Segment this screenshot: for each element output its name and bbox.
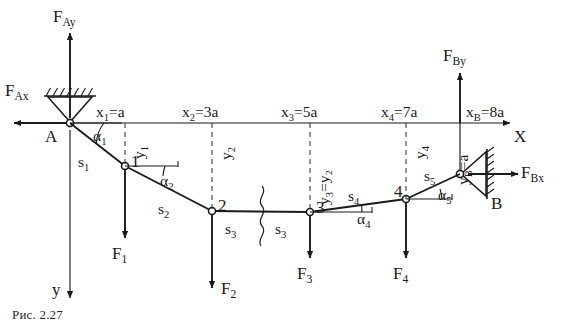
wavy-break-icon (260, 186, 264, 246)
label-x3: x3=5a (281, 104, 317, 124)
label-x4: x4=7a (381, 104, 417, 124)
label-f3: F3 (297, 265, 312, 286)
label-s5: s5 (424, 168, 435, 188)
label-alpha1: α1 (93, 128, 106, 148)
figure-caption: Рис. 2.27 (12, 307, 63, 321)
label-s1: s1 (78, 154, 89, 174)
label-alpha5: α5 (438, 187, 451, 207)
label-x2: x2=3a (182, 104, 218, 124)
label-x-axis: X (514, 128, 526, 145)
label-s2: s2 (158, 201, 169, 221)
label-alpha2: α2 (160, 173, 173, 193)
label-s3-left: s3 (225, 221, 236, 241)
label-node-3: 3 (316, 199, 325, 216)
label-alpha4: α4 (357, 211, 370, 231)
label-f4: F4 (393, 265, 408, 286)
label-f1: F1 (112, 245, 127, 266)
label-y-axis: y (52, 281, 61, 298)
label-node-1: 1 (131, 153, 140, 170)
label-xb: xB=8a (466, 104, 504, 124)
angle-arcs (97, 123, 443, 212)
label-s3-right: s3 (275, 221, 286, 241)
label-s4: s4 (348, 188, 359, 208)
label-fby: FBy (443, 47, 466, 68)
cable-segment-s3 (212, 211, 310, 212)
label-support-a: A (45, 128, 57, 145)
label-fbx: FBx (521, 164, 544, 185)
label-support-b: B (491, 195, 502, 212)
label-fax: FAx (5, 82, 29, 103)
label-node-4: 4 (394, 183, 403, 200)
label-fay: FAy (53, 8, 76, 29)
label-node-2: 2 (218, 197, 227, 214)
ordinate-dashed-lines (125, 123, 406, 212)
label-y2: y2 (218, 147, 238, 160)
label-f2: F2 (221, 280, 236, 301)
label-x1: x1=a (96, 104, 125, 124)
label-yb: yB=a (455, 155, 475, 185)
label-y4: y4 (412, 146, 432, 159)
